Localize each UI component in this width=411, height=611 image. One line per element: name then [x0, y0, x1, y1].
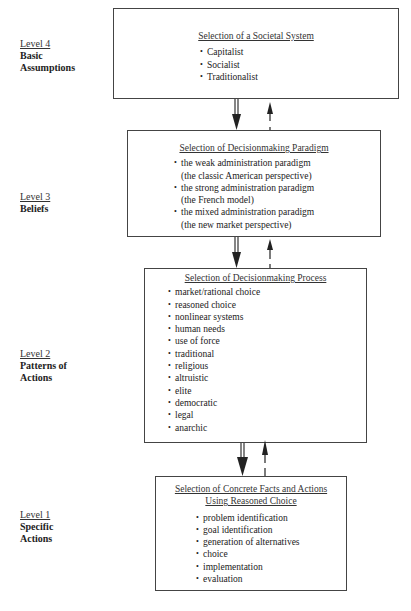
- down-arrow-icon: [232, 237, 241, 268]
- connector-arrows: [0, 0, 411, 611]
- down-arrow-icon: [237, 443, 248, 476]
- up-arrow-icon: [267, 239, 273, 268]
- up-arrow-icon: [267, 102, 273, 130]
- down-arrow-icon: [232, 99, 241, 130]
- up-arrow-icon: [262, 440, 268, 476]
